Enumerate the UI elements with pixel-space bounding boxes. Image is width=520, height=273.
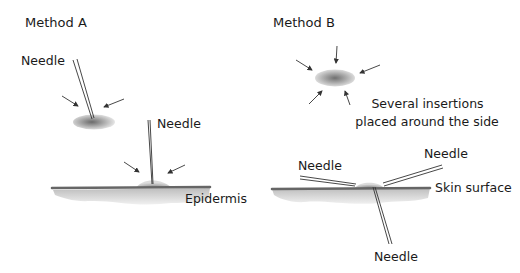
skin-shadow <box>272 188 430 204</box>
skin-surface-line <box>272 188 430 189</box>
method-b-panel <box>272 46 443 244</box>
method-a-title: Method A <box>25 16 87 29</box>
needle-label: Needle <box>21 55 65 68</box>
needle-label: Needle <box>298 160 342 173</box>
needle-icon <box>73 59 94 119</box>
arrow-icon <box>62 96 78 106</box>
caption-line-1: Several insertions <box>355 98 500 111</box>
arrow-icon <box>336 46 337 63</box>
arrow-icon <box>345 91 350 105</box>
caption-line-2: placed around the side <box>352 116 502 129</box>
needle-icon <box>300 176 356 186</box>
arrow-icon <box>296 60 312 70</box>
needle-label: Needle <box>424 148 468 161</box>
needle-icon <box>148 120 153 184</box>
epidermis-line <box>52 187 210 188</box>
arrow-icon <box>104 99 124 107</box>
needle-label: Needle <box>374 251 418 264</box>
arrow-icon <box>124 162 139 172</box>
arrow-icon <box>360 65 380 73</box>
method-b-title: Method B <box>273 16 335 29</box>
needle-label: Needle <box>157 118 201 131</box>
needle-icon <box>383 165 443 186</box>
arrow-icon <box>168 165 185 173</box>
diagram-canvas <box>0 0 520 273</box>
skin-surface-label: Skin surface <box>435 182 512 195</box>
method-a-panel <box>52 59 210 204</box>
injection-bleb-icon <box>315 70 355 87</box>
epidermis-label: Epidermis <box>185 193 247 206</box>
arrow-icon <box>309 91 322 104</box>
